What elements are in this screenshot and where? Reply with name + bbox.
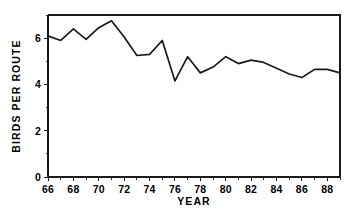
- x-tick-label: 82: [245, 183, 257, 195]
- data-series-line: [48, 21, 340, 81]
- y-tick-label: 2: [35, 125, 41, 137]
- x-tick-label: 76: [169, 183, 181, 195]
- line-chart: 0246666870727476788082848688 BIRDS PER R…: [0, 0, 361, 212]
- x-tick-label: 78: [194, 183, 206, 195]
- y-tick-label: 6: [35, 32, 41, 44]
- x-tick-label: 80: [220, 183, 232, 195]
- x-tick-label: 84: [270, 183, 282, 195]
- axis-frame-top-right: [48, 15, 340, 177]
- x-tick-label: 72: [118, 183, 130, 195]
- x-tick-label: 66: [42, 183, 54, 195]
- x-tick-label: 86: [296, 183, 308, 195]
- axis-spine-left-bottom: [48, 15, 340, 177]
- chart-render-layer: 0246666870727476788082848688: [35, 15, 340, 195]
- chart-container: 0246666870727476788082848688 BIRDS PER R…: [0, 0, 361, 212]
- x-tick-label: 88: [321, 183, 333, 195]
- x-axis-title: YEAR: [177, 195, 211, 207]
- x-tick-label: 68: [67, 183, 79, 195]
- y-axis-title: BIRDS PER ROUTE: [10, 39, 22, 152]
- x-tick-label: 74: [144, 183, 156, 195]
- y-tick-label: 4: [35, 78, 41, 90]
- y-tick-label: 0: [35, 171, 41, 183]
- x-tick-label: 70: [93, 183, 105, 195]
